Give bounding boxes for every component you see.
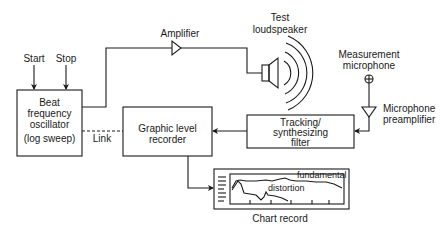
chart-x-ticks xyxy=(250,200,329,204)
fundamental-label: fundamental xyxy=(297,170,347,181)
sound-wave-4 xyxy=(288,36,313,110)
chart-record-label: Chart record xyxy=(240,213,320,224)
recorder-label-2: recorder xyxy=(123,134,212,145)
preamplifier-label-1: Microphone xyxy=(383,103,435,114)
preamp-to-filter-wire xyxy=(355,117,369,131)
amplifier-label: Amplifier xyxy=(150,28,210,39)
link-label: Link xyxy=(90,133,114,144)
start-label: Start xyxy=(22,53,46,64)
loudspeaker-magnet xyxy=(262,65,269,81)
stop-label: Stop xyxy=(54,53,78,64)
preamplifier-symbol xyxy=(362,107,376,117)
recorder-to-chart-wire xyxy=(188,156,213,188)
oscillator-label-4: (log sweep) xyxy=(17,133,82,144)
amplifier-symbol xyxy=(172,41,181,55)
loudspeaker-label-2: loudspeaker xyxy=(240,24,320,35)
microphone-label-2: microphone xyxy=(329,60,409,71)
oscillator-label-1: Beat xyxy=(17,97,82,108)
preamplifier-label-2: preamplifier xyxy=(383,114,435,125)
recorder-label-1: Graphic level xyxy=(123,123,212,134)
osc-to-amp-wire xyxy=(82,48,172,107)
sound-wave-2 xyxy=(285,52,299,94)
sound-wave-3 xyxy=(286,43,307,103)
microphone-label-1: Measurement xyxy=(329,49,409,60)
chart-scale-marks xyxy=(218,177,226,201)
oscillator-label-2: frequency xyxy=(17,108,82,119)
loudspeaker-cone xyxy=(269,58,278,88)
amp-to-speaker-wire xyxy=(181,48,262,73)
filter-label-3: filter xyxy=(247,137,354,148)
sound-wave-1 xyxy=(284,61,291,85)
loudspeaker-label-1: Test xyxy=(240,12,320,23)
oscillator-label-3: oscillator xyxy=(17,119,82,130)
distortion-label: distortion xyxy=(268,183,305,194)
